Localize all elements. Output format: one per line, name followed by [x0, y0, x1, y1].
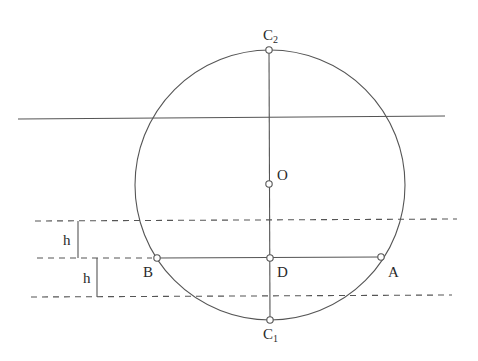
point-o-marker [266, 181, 272, 187]
label-a: A [388, 265, 399, 280]
solid-horizontal-line [18, 116, 445, 119]
point-c1-marker [267, 317, 273, 323]
diagram: C2 O D B A C1 h h [0, 0, 478, 361]
label-c2: C2 [263, 28, 278, 45]
diagram-canvas [0, 0, 478, 361]
point-a-marker [378, 254, 384, 260]
label-c1: C1 [263, 327, 278, 344]
label-d: D [277, 265, 288, 280]
point-b-marker [154, 255, 160, 261]
point-c2-marker [266, 47, 272, 53]
label-o: O [277, 168, 288, 183]
label-h-lower: h [83, 271, 91, 286]
dashed-lower-line [31, 295, 452, 297]
dashed-upper-line [35, 219, 457, 221]
label-b: B [143, 265, 153, 280]
point-d-marker [267, 255, 273, 261]
label-h-upper: h [63, 233, 71, 248]
